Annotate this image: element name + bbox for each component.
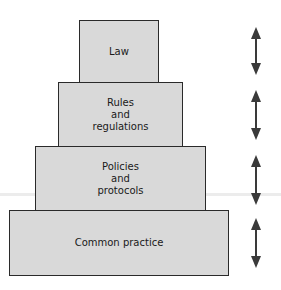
tier-label: Law xyxy=(109,46,129,58)
tier-common-practice: Common practice xyxy=(9,210,229,276)
tier-policies-and-protocols: Policies and protocols xyxy=(35,146,206,212)
double-arrow-icon xyxy=(249,155,263,205)
double-arrow-icon xyxy=(249,90,263,140)
tier-label: Common practice xyxy=(75,237,164,249)
tier-rules-and-regulations: Rules and regulations xyxy=(58,82,183,148)
double-arrow-icon xyxy=(249,27,263,75)
double-arrow-icon xyxy=(249,218,263,268)
tier-label: Rules and regulations xyxy=(92,97,148,133)
tier-law: Law xyxy=(79,20,159,84)
tier-label: Policies and protocols xyxy=(97,161,143,197)
